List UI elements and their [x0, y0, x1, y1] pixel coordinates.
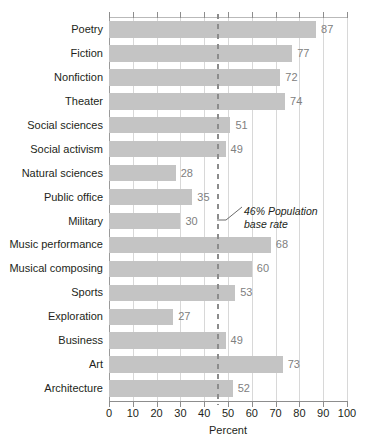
- bar-value-label: 49: [231, 332, 243, 349]
- category-label: Natural sciences: [0, 162, 103, 185]
- annotation-leader-line: [216, 205, 246, 221]
- category-label: Fiction: [0, 42, 103, 65]
- bar: [109, 285, 235, 301]
- bar-row: 74: [109, 90, 347, 113]
- x-tick-label: 100: [332, 406, 362, 420]
- bar-value-label: 49: [231, 141, 243, 158]
- category-label: Public office: [0, 186, 103, 209]
- bar-value-label: 53: [240, 284, 252, 301]
- bar-value-label: 60: [257, 260, 269, 277]
- bar-row: 49: [109, 138, 347, 161]
- x-axis-title: Percent: [109, 424, 347, 436]
- bar: [109, 356, 283, 372]
- category-label: Exploration: [0, 305, 103, 328]
- category-label: Military: [0, 210, 103, 233]
- bar-row: 28: [109, 162, 347, 185]
- bar: [109, 69, 280, 85]
- bar-value-label: 52: [238, 380, 250, 397]
- bar-row: 53: [109, 281, 347, 304]
- bar-value-label: 51: [235, 117, 247, 134]
- category-label: Architecture: [0, 377, 103, 400]
- bar: [109, 332, 226, 348]
- category-label: Business: [0, 329, 103, 352]
- tick-mark-top: [347, 12, 348, 18]
- bar-value-label: 27: [178, 308, 190, 325]
- bar: [109, 237, 271, 253]
- bar-value-label: 73: [288, 356, 300, 373]
- bar: [109, 309, 173, 325]
- bar-row: 73: [109, 353, 347, 376]
- bar: [109, 165, 176, 181]
- bar-row: 68: [109, 233, 347, 256]
- reference-line-annotation: 46% Population base rate: [244, 205, 364, 231]
- bar-value-label: 72: [285, 69, 297, 86]
- category-label: Nonfiction: [0, 66, 103, 89]
- bar: [109, 21, 316, 37]
- category-label: Social activism: [0, 138, 103, 161]
- bar-value-label: 74: [290, 93, 302, 110]
- category-label: Musical composing: [0, 257, 103, 280]
- category-label: Theater: [0, 90, 103, 113]
- bar-row: 52: [109, 377, 347, 400]
- bar: [109, 117, 230, 133]
- bar-row: 87: [109, 18, 347, 41]
- annotation-line-1: 46% Population: [244, 205, 364, 218]
- bar-value-label: 68: [276, 236, 288, 253]
- bar-row: 27: [109, 305, 347, 328]
- category-label: Sports: [0, 281, 103, 304]
- bar-chart: PoetryFictionNonfictionTheaterSocial sci…: [0, 0, 377, 445]
- bar-value-label: 28: [181, 165, 193, 182]
- bar-row: 77: [109, 42, 347, 65]
- category-label: Art: [0, 353, 103, 376]
- bar-row: 49: [109, 329, 347, 352]
- bar: [109, 213, 180, 229]
- bar-row: 51: [109, 114, 347, 137]
- bar-value-label: 87: [321, 21, 333, 38]
- bar: [109, 261, 252, 277]
- bar: [109, 141, 226, 157]
- bar: [109, 380, 233, 396]
- category-label: Music performance: [0, 233, 103, 256]
- bar-row: 72: [109, 66, 347, 89]
- category-label: Poetry: [0, 18, 103, 41]
- bar-row: 60: [109, 257, 347, 280]
- annotation-line-2: base rate: [244, 218, 364, 231]
- bar-value-label: 77: [297, 45, 309, 62]
- bar: [109, 45, 292, 61]
- bar: [109, 93, 285, 109]
- bar: [109, 189, 192, 205]
- category-label: Social sciences: [0, 114, 103, 137]
- bar-value-label: 35: [197, 189, 209, 206]
- bar-value-label: 30: [185, 213, 197, 230]
